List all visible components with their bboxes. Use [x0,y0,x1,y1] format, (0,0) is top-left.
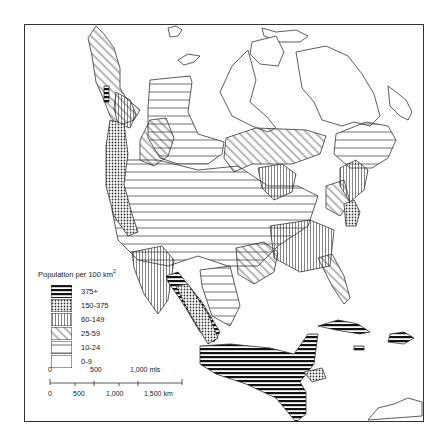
region-quebec [334,122,396,168]
scale-bar-line [48,378,188,388]
legend-row-10-24: 10-24 [38,341,158,355]
legend-label: 60-149 [81,315,104,324]
region-arctic-island-2 [178,54,200,65]
region-hispaniola [388,332,414,344]
legend-label: 375+ [81,287,98,296]
scale-bar: 0 500 1,000 mls 0 500 1,000 1,500 km [44,366,194,406]
scale-km-tick-500: 500 [73,390,85,397]
scale-km-tick-1500: 1,500 km [144,390,173,397]
scale-mile-tick-1000: 1,000 mls [130,366,160,373]
legend-row-60-149: 60-149 [38,313,158,327]
region-jamaica [354,346,364,350]
region-labrador [388,86,412,120]
swatch-sparse-horizontal-icon [51,341,72,354]
scale-mile-tick-500: 500 [90,366,102,373]
region-vancouver-island [104,86,109,102]
region-texas-gulf [236,242,278,284]
legend-title-superscript: 2 [113,268,116,274]
scale-km-tick-0: 0 [48,390,52,397]
legend-label: 10-24 [81,343,100,352]
legend-row-150-375: 150-375 [38,299,158,313]
swatch-crosshatch-icon [51,299,72,312]
swatch-vertical-icon [51,313,72,326]
legend-row-25-59: 25-59 [38,327,158,341]
legend-title-text: Population per 100 km [38,270,113,279]
legend-label: 0-9 [81,357,92,366]
region-mexico-south [200,334,318,422]
scale-km-tick-1000: 1,000 [106,390,124,397]
swatch-diagonal-icon [51,327,72,340]
legend-title: Population per 100 km2 [38,268,158,279]
legend-label: 25-59 [81,329,100,338]
region-mid-atlantic [344,200,360,226]
region-cuba [318,320,370,334]
legend: Population per 100 km2 375+ 150-375 60-1… [38,268,158,369]
region-florida [318,254,350,304]
region-south-america-coast [368,398,422,420]
swatch-dense-horizontal-icon [51,285,72,298]
region-arctic-island-west [168,26,182,37]
region-baffin-island [296,46,380,126]
scale-mile-tick-0: 0 [48,366,52,373]
legend-label: 150-375 [81,301,109,310]
legend-row-375-plus: 375+ [38,285,158,299]
